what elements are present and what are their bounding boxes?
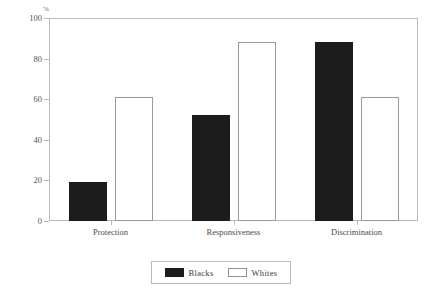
bar-blacks-responsiveness bbox=[192, 115, 230, 221]
bar-whites-responsiveness bbox=[238, 42, 276, 221]
bar-blacks-protection bbox=[69, 182, 107, 221]
y-tick-mark bbox=[44, 140, 49, 141]
y-tick-mark bbox=[44, 221, 49, 222]
bar-blacks-discrimination bbox=[315, 42, 353, 221]
legend-entry-blacks: Blacks bbox=[165, 268, 214, 278]
legend-swatch-whites-icon bbox=[228, 268, 247, 277]
y-tick-label: 40 bbox=[0, 135, 49, 145]
y-tick-label: 80 bbox=[0, 54, 49, 64]
legend-swatch-blacks-icon bbox=[165, 268, 184, 277]
x-tick-label: Discrimination bbox=[331, 227, 382, 237]
y-tick-mark bbox=[44, 180, 49, 181]
y-tick-mark bbox=[44, 99, 49, 100]
bar-whites-protection bbox=[115, 97, 153, 221]
legend-entry-whites: Whites bbox=[228, 268, 278, 278]
y-tick-label: 60 bbox=[0, 94, 49, 104]
bar-chart: % 020406080100 ProtectionResponsivenessD… bbox=[0, 0, 441, 296]
y-tick-label: 20 bbox=[0, 175, 49, 185]
y-tick-mark bbox=[44, 59, 49, 60]
x-tick-label: Responsiveness bbox=[207, 227, 261, 237]
legend-label-blacks: Blacks bbox=[189, 268, 214, 278]
x-tick-mark bbox=[234, 221, 235, 225]
bar-whites-discrimination bbox=[361, 97, 399, 221]
x-tick-mark bbox=[111, 221, 112, 225]
legend-label-whites: Whites bbox=[252, 268, 278, 278]
legend: Blacks Whites bbox=[151, 261, 291, 284]
y-axis-unit-label: % bbox=[43, 5, 49, 13]
y-tick-mark bbox=[44, 18, 49, 19]
y-tick-label: 0 bbox=[0, 216, 49, 226]
x-tick-mark bbox=[357, 221, 358, 225]
y-tick-label: 100 bbox=[0, 13, 49, 23]
x-tick-label: Protection bbox=[93, 227, 128, 237]
